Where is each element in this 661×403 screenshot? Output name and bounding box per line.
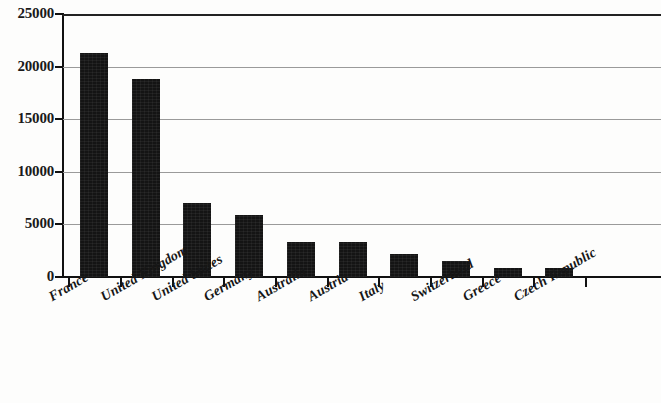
y-axis-tick-label: 25000 xyxy=(17,6,54,21)
y-tick-10000 xyxy=(55,171,63,173)
y-axis-tick-label: 0 xyxy=(47,269,54,284)
bar xyxy=(80,53,108,277)
gridline-25000 xyxy=(62,14,661,16)
x-axis-category-label: Italy xyxy=(356,277,388,305)
y-axis-tick-label: 15000 xyxy=(17,111,54,126)
bar-chart: 0500010000150002000025000 FranceUnited K… xyxy=(0,0,661,403)
y-tick-0 xyxy=(55,276,63,278)
gridline-20000 xyxy=(62,67,661,68)
y-tick-15000 xyxy=(55,118,63,120)
bar xyxy=(390,254,418,277)
y-axis-tick-label: 10000 xyxy=(17,164,54,179)
x-tick xyxy=(585,278,587,287)
y-axis-tick-label: 20000 xyxy=(17,59,54,74)
bar xyxy=(132,79,160,277)
y-axis-tick-label: 5000 xyxy=(25,216,54,231)
y-axis-labels: 0500010000150002000025000 xyxy=(0,0,54,403)
y-tick-25000 xyxy=(55,13,63,15)
y-tick-5000 xyxy=(55,223,63,225)
plot-area xyxy=(62,14,661,277)
y-tick-20000 xyxy=(55,66,63,68)
